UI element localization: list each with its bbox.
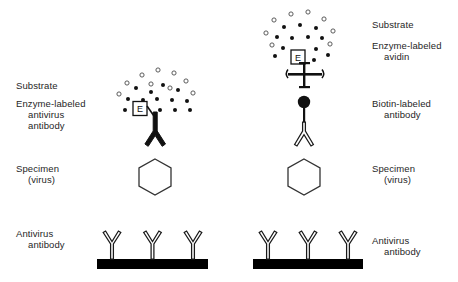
label-right-enzyme-avidin-line2: avidin [384, 51, 409, 63]
label-right-antivirus-line1: Antivirus [372, 235, 409, 247]
label-left-enzyme-antibody-line2: antivirus [28, 109, 64, 121]
label-right-biotin-antibody-line2: antibody [384, 109, 421, 121]
label-right-enzyme-avidin-line1: Enzyme-labeled [372, 40, 442, 52]
label-left-antivirus-line2: antibody [28, 239, 65, 251]
label-left-enzyme-antibody-line1: Enzyme-labeled [16, 98, 86, 110]
label-left-specimen-line1: Specimen [16, 163, 59, 175]
left-substrate-open-dots [117, 68, 195, 96]
right-biotin-marker [298, 96, 310, 122]
label-left-specimen-line2: (virus) [28, 174, 55, 186]
label-right-biotin-antibody-line1: Biotin-labeled [372, 98, 431, 110]
label-left-antivirus-line1: Antivirus [16, 228, 53, 240]
right-enzyme-box: E [291, 50, 305, 64]
right-biotin-labeled-antibody [295, 122, 314, 146]
left-capture-antibodies [103, 231, 202, 259]
right-capture-antibodies [259, 231, 357, 259]
capture-antibody [339, 231, 357, 259]
right-specimen-hexagon [288, 159, 320, 195]
capture-antibody [144, 231, 162, 259]
left-solid-support-bar [97, 259, 208, 269]
label-left-enzyme-antibody-line3: antibody [28, 120, 65, 132]
left-enzyme-box: E [133, 102, 147, 116]
label-right-specimen-line2: (virus) [384, 174, 411, 186]
left-specimen-hexagon [139, 159, 171, 195]
label-right-specimen-line1: Specimen [372, 163, 415, 175]
label-right-substrate: Substrate [372, 19, 414, 31]
diagram-canvas: E [0, 0, 458, 282]
left-enzyme-labeled-antibody [145, 112, 166, 146]
left-panel-graphics: E [97, 68, 208, 269]
right-solid-support-bar [253, 259, 363, 269]
capture-antibody [299, 231, 317, 259]
label-left-substrate: Substrate [16, 80, 58, 92]
right-substrate-open-dots [264, 10, 335, 47]
right-panel-graphics: E [253, 10, 363, 269]
capture-antibody [103, 231, 121, 259]
capture-antibody [184, 231, 202, 259]
right-enzyme-label: E [295, 53, 301, 63]
left-enzyme-label: E [137, 104, 143, 114]
capture-antibody [259, 231, 277, 259]
right-avidin-cross [286, 62, 324, 88]
label-right-antivirus-line2: antibody [384, 246, 421, 258]
